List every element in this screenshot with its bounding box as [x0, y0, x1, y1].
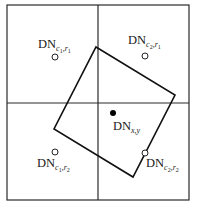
pixel-label-c2r2: DNc2,r2	[146, 156, 179, 173]
pixel-label-c1r1: DNc1,r1	[38, 37, 71, 54]
pixel-center-circle-c1r1	[52, 54, 58, 60]
target-point-dot	[110, 110, 116, 116]
pixel-center-circle-c2r1	[142, 53, 148, 59]
resampling-diagram: DNc1,r1DNc2,r1DNc1,r2DNc2,r2 DNx,y	[0, 0, 197, 208]
pixel-label-c2r1: DNc2,r1	[128, 33, 161, 50]
pixel-center-circle-c1r2	[52, 149, 58, 155]
target-label-base: DN	[113, 119, 131, 133]
pixel-label-c1r2: DNc1,r2	[37, 156, 70, 173]
target-point-label: DNx,y	[113, 119, 141, 135]
target-label-subscript: x,y	[130, 126, 141, 135]
